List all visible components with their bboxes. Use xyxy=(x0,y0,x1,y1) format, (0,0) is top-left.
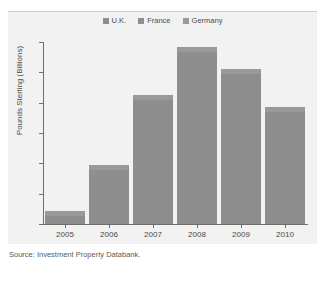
x-axis-tick-label: 2007 xyxy=(144,230,162,239)
x-axis-tick-label: 2008 xyxy=(188,230,206,239)
bar[interactable] xyxy=(177,47,217,224)
legend-label: Germany xyxy=(192,17,223,25)
bar-top-highlight xyxy=(45,211,85,216)
y-axis-tick-mark xyxy=(39,133,43,134)
legend-swatch-icon xyxy=(138,18,144,24)
legend-item[interactable]: France xyxy=(138,17,170,25)
legend-item[interactable]: Germany xyxy=(183,17,223,25)
x-axis-tick-label: 2010 xyxy=(276,230,294,239)
legend-swatch-icon xyxy=(103,18,109,24)
legend-swatch-icon xyxy=(183,18,189,24)
x-axis-line xyxy=(43,224,308,225)
bar-top-highlight xyxy=(89,165,129,170)
x-axis-tick-mark xyxy=(109,224,110,228)
bar[interactable] xyxy=(45,211,85,224)
x-axis-tick-mark xyxy=(241,224,242,228)
x-axis-tick-mark xyxy=(197,224,198,228)
x-axis-tick-label: 2006 xyxy=(100,230,118,239)
legend-label: U.K. xyxy=(112,17,127,25)
y-axis-tick-mark xyxy=(39,42,43,43)
bar-top-highlight xyxy=(221,69,261,74)
x-axis-tick-mark xyxy=(65,224,66,228)
bar[interactable] xyxy=(89,165,129,224)
source-note: Source: Investment Property Databank. xyxy=(9,250,140,260)
y-axis-tick-mark xyxy=(39,163,43,164)
bar[interactable] xyxy=(133,95,173,224)
bar-top-highlight xyxy=(177,47,217,52)
x-axis-tick-label: 2005 xyxy=(56,230,74,239)
y-axis-tick-mark xyxy=(39,103,43,104)
x-axis-tick-mark xyxy=(153,224,154,228)
x-axis-tick-mark xyxy=(285,224,286,228)
chart-legend: U.K.FranceGermany xyxy=(8,14,317,28)
y-axis-tick-mark xyxy=(39,194,43,195)
plot-area xyxy=(43,42,307,224)
bar[interactable] xyxy=(265,107,305,224)
x-axis-tick-label: 2009 xyxy=(232,230,250,239)
legend-label: France xyxy=(147,17,170,25)
chart-figure: U.K.FranceGermany Pounds Sterling (Billi… xyxy=(0,0,325,301)
y-axis-tick-mark xyxy=(39,72,43,73)
bar[interactable] xyxy=(221,69,261,224)
bar-top-highlight xyxy=(133,95,173,100)
y-axis-tick-mark xyxy=(39,224,43,225)
legend-item[interactable]: U.K. xyxy=(103,17,127,25)
bar-group xyxy=(43,42,307,224)
bar-top-highlight xyxy=(265,107,305,112)
